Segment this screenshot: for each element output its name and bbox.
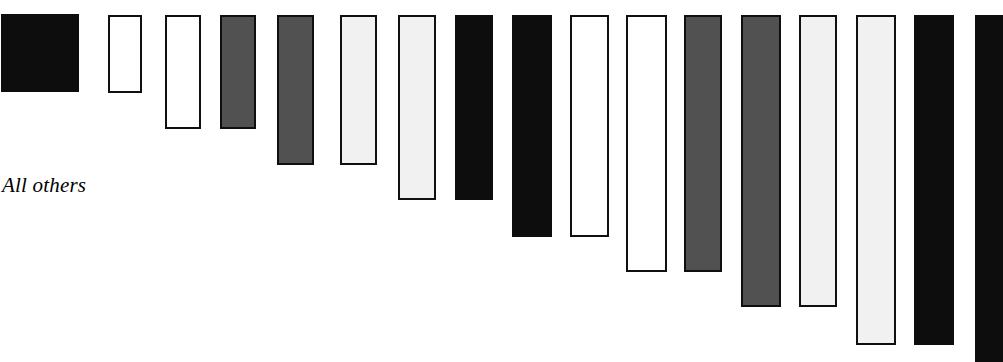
bar-13 xyxy=(741,15,781,307)
bar-14 xyxy=(799,15,837,307)
all-others-label: All others xyxy=(2,175,86,196)
bar-12 xyxy=(684,15,722,272)
bar-11 xyxy=(626,15,667,272)
bar-10 xyxy=(570,15,609,237)
bar-9 xyxy=(512,15,552,237)
bar-17 xyxy=(975,15,1003,362)
bar-2 xyxy=(108,15,142,93)
bar-chart: All others xyxy=(0,0,1003,362)
bar-15 xyxy=(856,15,896,345)
bar-1 xyxy=(1,14,79,92)
bar-16 xyxy=(914,15,954,345)
bar-5 xyxy=(277,15,314,165)
bar-3 xyxy=(165,15,201,129)
bar-6 xyxy=(340,15,377,165)
bar-4 xyxy=(220,15,256,129)
bar-8 xyxy=(455,15,493,200)
bar-7 xyxy=(398,15,436,200)
